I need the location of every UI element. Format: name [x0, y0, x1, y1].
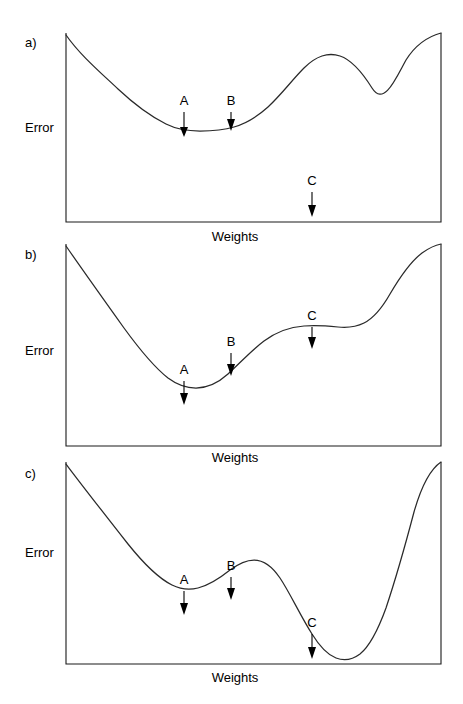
panel-a-tag: a) — [25, 35, 37, 50]
panel-b-marker-b: B — [227, 334, 236, 376]
panel-b: b) Error Weights A B C — [25, 244, 441, 465]
panel-b-y-axis-label: Error — [25, 343, 55, 358]
panel-b-marker-c-label: C — [307, 308, 316, 323]
panel-c-marker-b: B — [227, 558, 236, 600]
panel-a-marker-a-arrow-head — [180, 127, 188, 137]
panel-c-axis-frame — [66, 462, 441, 664]
panel-b-marker-c-arrow-head — [308, 337, 316, 349]
panel-b-axis-frame — [66, 244, 441, 446]
panel-a-marker-b-arrow-head — [227, 119, 235, 131]
panel-a-marker-c-label: C — [307, 173, 316, 188]
panel-b-x-axis-label: Weights — [212, 450, 259, 465]
panel-c-marker-a-label: A — [180, 572, 189, 587]
panel-c-marker-c-label: C — [307, 615, 316, 630]
panel-c-marker-a: A — [180, 572, 189, 615]
panel-a-axis-frame — [66, 33, 441, 222]
panel-a-marker-a-label: A — [180, 93, 189, 108]
figure-error-surfaces: a) Error Weights A B C b) — [0, 0, 463, 704]
panel-b-error-curve — [66, 244, 441, 388]
panel-a-marker-c-arrow-head — [308, 205, 316, 217]
panel-a-x-axis-label: Weights — [212, 229, 259, 244]
panel-a-marker-c: C — [307, 173, 316, 217]
panel-c: c) Error Weights A B C — [25, 462, 441, 685]
panel-b-marker-c: C — [307, 308, 316, 349]
panel-a-marker-b-label: B — [227, 93, 236, 108]
panel-c-error-curve — [66, 462, 441, 660]
figure-canvas: a) Error Weights A B C b) — [0, 0, 463, 704]
panel-c-x-axis-label: Weights — [212, 670, 259, 685]
panel-c-marker-b-label: B — [227, 558, 236, 573]
panel-b-tag: b) — [25, 247, 37, 262]
panel-c-marker-c: C — [307, 615, 316, 659]
panel-a: a) Error Weights A B C — [25, 33, 441, 244]
panel-c-y-axis-label: Error — [25, 545, 55, 560]
panel-c-marker-c-arrow-head — [308, 647, 316, 659]
panel-b-marker-b-label: B — [227, 334, 236, 349]
panel-a-y-axis-label: Error — [25, 120, 55, 135]
panel-c-tag: c) — [25, 466, 36, 481]
panel-c-marker-a-arrow-head — [180, 603, 188, 615]
panel-b-marker-a: A — [180, 362, 189, 405]
panel-a-marker-b: B — [227, 93, 236, 131]
panel-c-marker-b-arrow-head — [227, 588, 235, 600]
panel-a-error-curve — [66, 33, 441, 131]
panel-b-marker-a-arrow-head — [180, 393, 188, 405]
panel-b-marker-a-label: A — [180, 362, 189, 377]
